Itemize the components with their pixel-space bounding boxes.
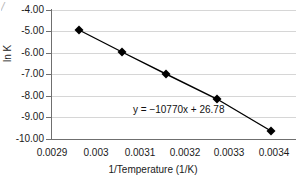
y-axis-tick (46, 53, 51, 54)
chart-figure: / -4.00 -5.00 -6.00 -7.00 -8.00 -9.00 -1… (0, 0, 306, 180)
x-axis-line (51, 139, 296, 140)
y-tick-label: -5.00 (2, 26, 44, 36)
gridline (51, 96, 296, 97)
y-tick-label: -10.00 (2, 134, 44, 144)
y-tick-label: -4.00 (2, 5, 44, 15)
gridline (51, 53, 296, 54)
y-axis-tick (46, 117, 51, 118)
y-tick-label: -8.00 (2, 91, 44, 101)
gridline (51, 74, 296, 75)
y-tick-label: -9.00 (2, 112, 44, 122)
y-axis-title: ln K (2, 45, 14, 62)
y-axis-tick (46, 96, 51, 97)
y-axis-tick (46, 139, 51, 140)
y-axis-tick (46, 31, 51, 32)
x-tick-label: 0.0034 (248, 147, 300, 158)
y-axis-line (51, 9, 52, 140)
y-axis-tick (46, 10, 51, 11)
gridline (51, 10, 296, 11)
y-axis-tick (46, 74, 51, 75)
gridline (51, 117, 296, 118)
trendline-equation-label: y = −10770x + 26.78 (133, 104, 224, 116)
plot-area (51, 10, 296, 139)
y-tick-label: -7.00 (2, 69, 44, 79)
x-axis-title: 1/Temperature (1/K) (0, 164, 306, 176)
gridline (51, 31, 296, 32)
